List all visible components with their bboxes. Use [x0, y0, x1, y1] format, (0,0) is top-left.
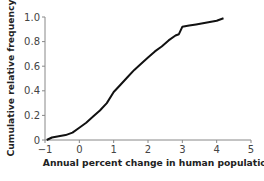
- x-tick-label: −1: [38, 144, 53, 155]
- y-tick-label: 0.8: [24, 36, 40, 47]
- y-axis-title: Cumulative relative frequency: [5, 0, 16, 156]
- x-tick-label: 5: [248, 144, 254, 155]
- y-axis: 00.20.40.60.81.0: [24, 12, 45, 146]
- y-tick-label: 1.0: [24, 12, 40, 23]
- x-axis-title: Annual percent change in human populatio…: [43, 157, 264, 168]
- chart-plot-area: 00.20.40.60.81.0 −1012345 Cumulative rel…: [0, 0, 264, 181]
- x-axis: −1012345: [38, 140, 255, 155]
- x-tick-label: 3: [179, 144, 185, 155]
- cumulative-frequency-line: [47, 18, 224, 140]
- x-tick-label: 4: [213, 144, 219, 155]
- y-tick-label: 0.6: [24, 61, 40, 72]
- x-tick-label: 1: [110, 144, 116, 155]
- x-tick-label: 2: [145, 144, 151, 155]
- x-tick-label: 0: [76, 144, 82, 155]
- y-tick-label: 0.2: [24, 110, 40, 121]
- cumulative-frequency-chart: 00.20.40.60.81.0 −1012345 Cumulative rel…: [0, 0, 264, 181]
- y-tick-label: 0.4: [24, 85, 40, 96]
